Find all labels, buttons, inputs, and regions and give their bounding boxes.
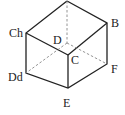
label-ch: Ch [9,27,23,39]
label-b: B [111,17,119,29]
label-f: F [111,63,118,75]
visible-edges [26,1,107,88]
label-e: E [63,97,70,109]
label-d: D [53,34,62,46]
label-dd: Dd [8,71,23,83]
hidden-edges [26,1,107,73]
label-c: C [71,54,79,66]
